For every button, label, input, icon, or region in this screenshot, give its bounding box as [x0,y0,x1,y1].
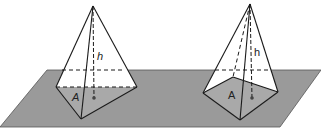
left-area-label: A [71,91,79,103]
left-height-foot [92,96,96,100]
right-height-label: h [254,46,260,58]
pyramids-diagram: h A h A [0,0,321,129]
right-height-foot [250,96,254,100]
left-height-label: h [97,50,103,62]
right-area-label: A [228,89,236,101]
